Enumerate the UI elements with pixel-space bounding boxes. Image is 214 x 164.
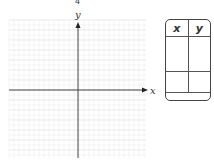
header-y: y bbox=[188, 20, 211, 36]
cell-x-2[interactable] bbox=[166, 72, 188, 92]
cell-y-1[interactable] bbox=[188, 37, 211, 71]
cell-x-1[interactable] bbox=[166, 37, 188, 71]
x-axis-arrow-icon bbox=[142, 88, 148, 93]
cell-y-2[interactable] bbox=[188, 72, 211, 92]
y-axis-label: y bbox=[74, 9, 81, 20]
table-row bbox=[166, 37, 210, 72]
table-row bbox=[166, 72, 210, 93]
header-x: x bbox=[166, 20, 188, 36]
xy-table: x y bbox=[165, 19, 211, 101]
x-axis-label: x bbox=[150, 85, 156, 96]
table-header-row: x y bbox=[166, 20, 210, 37]
top-label: 4 bbox=[75, 0, 80, 6]
coordinate-plane: x y 4 bbox=[0, 0, 160, 164]
